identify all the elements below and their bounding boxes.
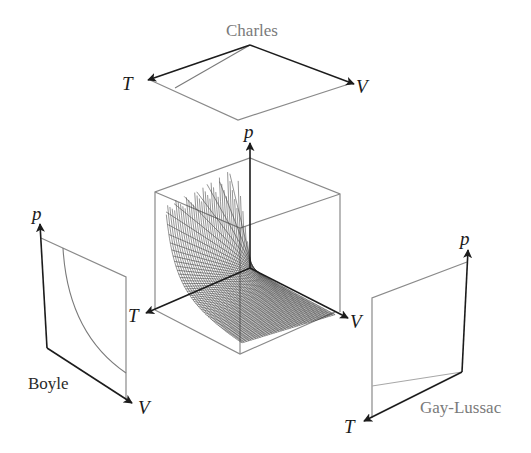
- boyle-p-axis-arrow: [40, 224, 47, 348]
- charles-panel: Charles T V: [122, 21, 370, 120]
- surface-v-label: V: [350, 311, 364, 332]
- gay-lussac-label: Gay-Lussac: [420, 398, 502, 417]
- charles-frame: [150, 80, 352, 120]
- surface-p-label: p: [242, 121, 254, 142]
- boyle-label: Boyle: [28, 374, 69, 393]
- pvt-diagram: Charles T V p T V p V Boyle: [0, 0, 531, 453]
- charles-t-label: T: [122, 73, 134, 94]
- gay-lussac-frame: [372, 262, 467, 418]
- charles-v-label: V: [356, 76, 370, 97]
- gay-lussac-t-label: T: [344, 416, 356, 437]
- gay-lussac-p-axis-arrow: [462, 250, 468, 372]
- surface-t-label: T: [128, 305, 140, 326]
- charles-v-axis-arrow: [250, 45, 354, 84]
- boyle-p-label: p: [30, 203, 42, 224]
- boyle-v-label: V: [138, 397, 152, 418]
- gay-lussac-p-label: p: [458, 228, 470, 249]
- charles-label: Charles: [226, 21, 278, 40]
- gay-lussac-panel: p T Gay-Lussac: [344, 228, 502, 437]
- boyle-isotherm-curve: [63, 248, 126, 373]
- surface-cube: p T V: [128, 121, 364, 354]
